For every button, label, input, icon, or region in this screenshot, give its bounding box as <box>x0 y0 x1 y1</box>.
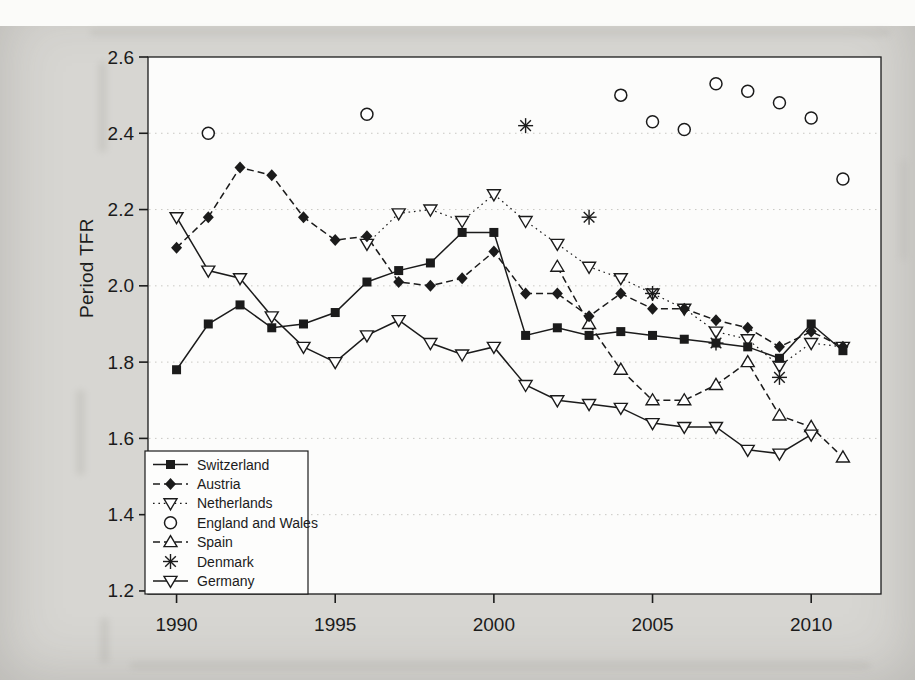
y-tick-label: 1.4 <box>108 504 135 525</box>
filled-square-marker <box>838 346 847 355</box>
open-circle-marker <box>202 127 214 139</box>
legend-label: England and Wales <box>197 515 318 531</box>
filled-square-marker <box>236 300 245 309</box>
filled-square-marker <box>426 258 435 267</box>
y-tick-label: 2.2 <box>108 199 134 220</box>
legend-label: Spain <box>197 534 233 550</box>
legend-label: Germany <box>197 573 255 589</box>
screenshot-root: Period TFR 1.21.41.61.82.02.22.42.619901… <box>0 0 915 680</box>
legend-label: Switzerland <box>197 457 269 473</box>
filled-square-marker <box>489 228 498 237</box>
y-tick-label: 1.6 <box>108 428 134 449</box>
y-tick-label: 2.0 <box>108 275 134 296</box>
open-circle-marker <box>837 173 849 185</box>
open-circle-marker <box>773 97 785 109</box>
filled-square-marker <box>166 460 175 469</box>
open-circle-marker <box>710 78 722 90</box>
y-tick-label: 2.4 <box>108 123 135 144</box>
x-tick-label: 2000 <box>473 614 515 635</box>
filled-square-marker <box>553 323 562 332</box>
open-circle-marker <box>742 85 754 97</box>
filled-square-marker <box>743 342 752 351</box>
filled-square-marker <box>299 319 308 328</box>
filled-square-marker <box>775 354 784 363</box>
asterisk-marker <box>772 370 787 385</box>
x-tick-label: 1995 <box>314 614 356 635</box>
filled-square-marker <box>331 308 340 317</box>
open-circle-marker <box>805 112 817 124</box>
legend-label: Netherlands <box>197 495 273 511</box>
open-circle-marker <box>678 123 690 135</box>
y-tick-label: 1.8 <box>108 352 134 373</box>
filled-square-marker <box>394 266 403 275</box>
tfr-chart: 1.21.41.61.82.02.22.42.61990199520002005… <box>0 0 915 680</box>
filled-square-marker <box>362 278 371 287</box>
y-tick-label: 2.6 <box>108 47 134 68</box>
y-tick-label: 1.2 <box>108 580 134 601</box>
filled-square-marker <box>711 339 720 348</box>
filled-square-marker <box>807 319 816 328</box>
x-tick-label: 1990 <box>155 614 197 635</box>
filled-square-marker <box>648 331 657 340</box>
legend-label: Austria <box>197 476 241 492</box>
open-circle-marker <box>615 89 627 101</box>
open-circle-marker <box>361 108 373 120</box>
filled-square-marker <box>616 327 625 336</box>
filled-square-marker <box>172 365 181 374</box>
filled-square-marker <box>267 323 276 332</box>
filled-square-marker <box>585 331 594 340</box>
asterisk-marker <box>518 118 533 133</box>
asterisk-marker <box>582 210 597 225</box>
filled-square-marker <box>680 335 689 344</box>
filled-square-marker <box>521 331 530 340</box>
filled-square-marker <box>204 319 213 328</box>
open-circle-marker <box>647 116 659 128</box>
x-tick-label: 2010 <box>790 614 832 635</box>
asterisk-marker <box>645 286 660 301</box>
legend-label: Denmark <box>197 554 255 570</box>
legend: SwitzerlandAustriaNetherlandsEngland and… <box>145 451 318 594</box>
filled-square-marker <box>458 228 467 237</box>
asterisk-marker <box>163 554 178 569</box>
x-tick-label: 2005 <box>631 614 673 635</box>
open-circle-marker <box>165 517 177 529</box>
